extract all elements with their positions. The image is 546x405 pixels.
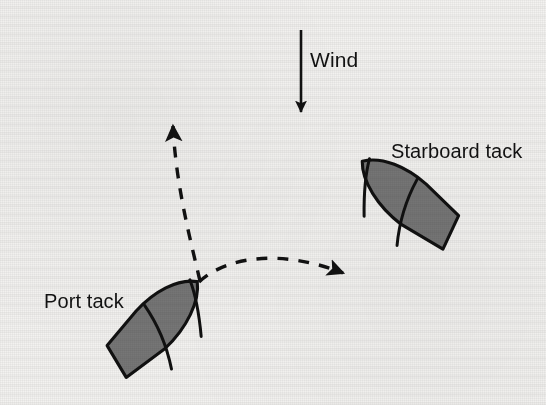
diagram-canvas bbox=[0, 0, 546, 405]
sailing-tack-diagram: Wind Starboard tack Port tack bbox=[0, 0, 546, 405]
port-tack-label: Port tack bbox=[44, 290, 124, 313]
starboard-tack-heading-path bbox=[199, 258, 343, 282]
port-tack-heading-path bbox=[173, 126, 200, 281]
port-path-dashed-curve bbox=[173, 126, 200, 281]
wind-label: Wind bbox=[310, 48, 358, 72]
starboard-path-dashed-curve bbox=[199, 258, 343, 282]
starboard-tack-label: Starboard tack bbox=[391, 140, 522, 163]
port-tack-boat bbox=[98, 266, 228, 396]
